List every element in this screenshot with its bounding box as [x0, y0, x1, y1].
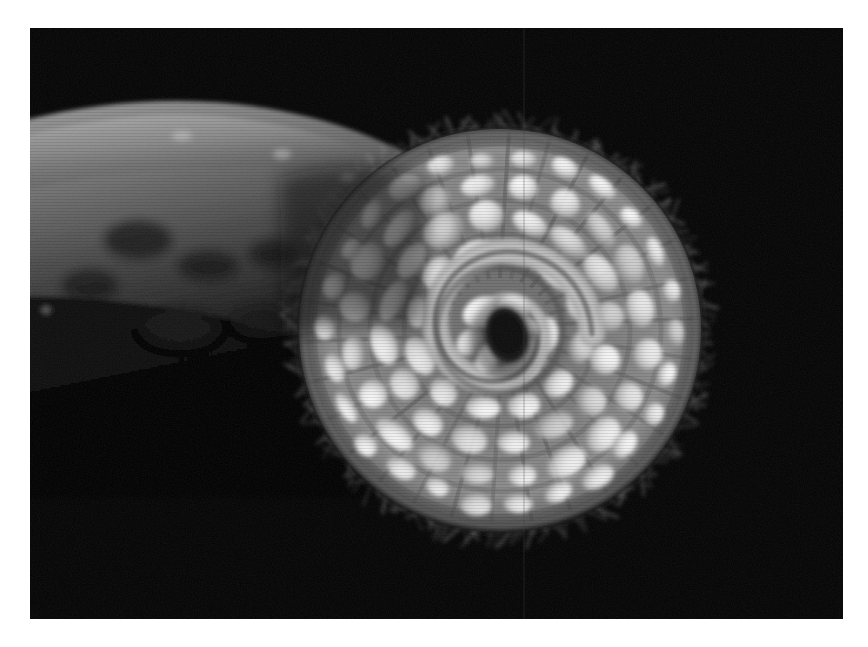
page-root — [0, 0, 868, 647]
macro-photograph — [30, 28, 843, 619]
photo-frame — [30, 28, 843, 619]
film-grain — [30, 28, 843, 619]
